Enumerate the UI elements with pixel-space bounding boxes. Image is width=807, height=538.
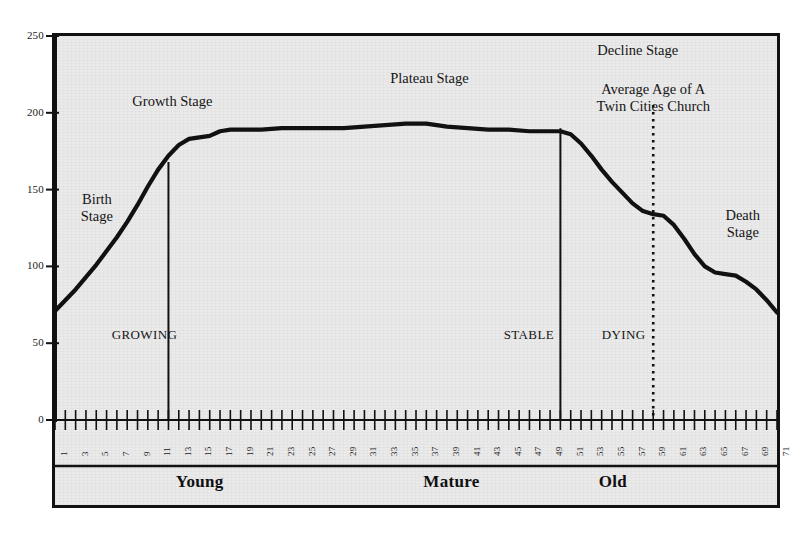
life-cycle-curve-path <box>55 124 777 313</box>
life-stage-label-young: Young <box>176 472 224 492</box>
annotation-dying-label: DYING <box>602 327 646 342</box>
y-axis-ticks <box>46 36 59 343</box>
stage-divider-lines <box>168 128 560 420</box>
annotation-growing-label: GROWING <box>112 327 178 342</box>
life-stage-band: YoungMatureOld <box>52 466 780 508</box>
annotation-average-age-label: Average Age of A Twin Cities Church <box>597 81 710 115</box>
life-stage-label-old: Old <box>599 472 627 492</box>
annotation-birth-stage: Birth Stage <box>81 191 113 225</box>
church-life-cycle-chart: 050100150200250 135791113151719212325272… <box>0 0 807 538</box>
life-stage-label-mature: Mature <box>423 472 479 492</box>
annotation-growth-stage: Growth Stage <box>132 93 212 110</box>
life-cycle-curve <box>55 124 777 313</box>
annotation-plateau-stage: Plateau Stage <box>390 70 469 87</box>
annotation-stable-label: STABLE <box>504 327 554 342</box>
annotation-decline-stage: Decline Stage <box>597 42 678 59</box>
annotation-death-stage: Death Stage <box>725 207 760 241</box>
